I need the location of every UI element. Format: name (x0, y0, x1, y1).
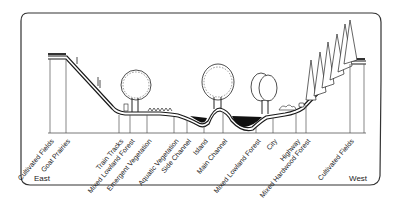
direction-label-west: West (349, 174, 367, 183)
city-buildings (279, 105, 296, 110)
tree-island (202, 64, 234, 109)
tree-cluster-west-forest (251, 73, 277, 114)
tree-cluster-east-forest (121, 70, 151, 112)
river-cross-section-diagram: Cultivated Fields Goat Prairies Train Tr… (0, 0, 397, 210)
direction-label-east: East (34, 174, 50, 183)
field-marker-east (48, 53, 66, 55)
emergent-vegetation (148, 108, 172, 111)
tree-cluster-hardwood-forest (306, 20, 357, 100)
highway-vehicle (299, 103, 304, 107)
cross-section-drawing (0, 0, 397, 210)
